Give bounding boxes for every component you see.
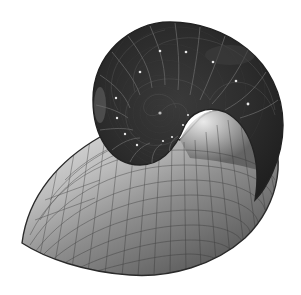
nautilus-shell-svg: [0, 0, 301, 295]
nautilus-render: [0, 0, 301, 295]
